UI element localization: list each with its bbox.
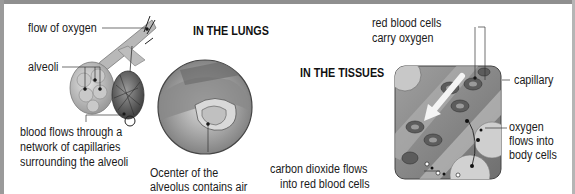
- lungs-title: IN THE LUNGS: [193, 24, 269, 38]
- tissue-closeup: [380, 40, 520, 194]
- label-blood-flows-1: blood flows through a: [20, 125, 122, 140]
- label-alveoli: alveoli: [28, 60, 58, 75]
- label-blood-flows-2: network of capillaries: [20, 140, 120, 155]
- label-center-alveolus-1: Ocenter of the: [150, 166, 218, 181]
- tissues-title: IN THE TISSUES: [300, 66, 384, 80]
- bronchiole-illustration: [95, 16, 156, 72]
- alveoli-cluster: [70, 62, 114, 114]
- label-flow-of-oxygen: flow of oxygen: [28, 21, 97, 36]
- label-co2-flows-1: carbon dioxide flows: [270, 162, 367, 177]
- label-co2-flows-2: into red blood cells: [280, 177, 370, 192]
- label-oxygen-flows-2: flows into: [509, 134, 554, 149]
- alveolus-closeup: [158, 60, 252, 154]
- label-center-alveolus-2: alveolus contains air: [150, 180, 247, 194]
- label-capillary: capillary: [514, 73, 553, 88]
- label-oxygen-flows-3: body cells: [509, 148, 557, 163]
- label-blood-flows-3: surrounding the alveoli: [20, 155, 128, 170]
- label-red-blood-cells-1: red blood cells: [372, 16, 441, 31]
- label-red-blood-cells-2: carry oxygen: [372, 31, 434, 46]
- label-oxygen-flows-1: oxygen: [509, 120, 544, 135]
